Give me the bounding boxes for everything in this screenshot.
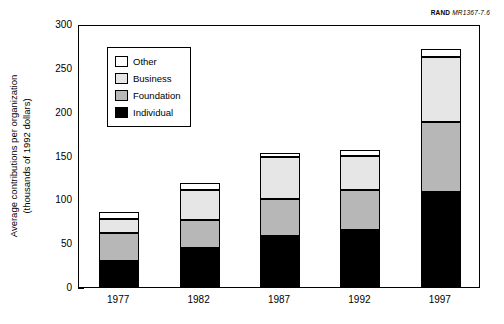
- y-axis-title: Average contributions per organization (…: [8, 24, 36, 288]
- y-axis-tick-label: 100: [38, 194, 72, 205]
- legend-swatch-other: [115, 56, 128, 67]
- y-axis-tick-label: 0: [38, 282, 72, 293]
- bar-segment-other: [99, 212, 139, 219]
- bar-segment-business: [340, 156, 380, 189]
- x-axis-label-1977: 1977: [88, 294, 148, 305]
- y-axis-tick-mark: [78, 288, 84, 289]
- bar-segment-individual: [340, 230, 380, 287]
- bar-segment-business: [421, 57, 461, 122]
- bar-1987: [260, 24, 300, 287]
- bar-segment-other: [340, 150, 380, 156]
- source-credit-brand: RAND: [431, 9, 451, 16]
- bar-segment-business: [260, 157, 300, 199]
- bar-segment-business: [99, 219, 139, 233]
- bar-1992: [340, 24, 380, 287]
- chart-legend: OtherBusinessFoundationIndividual: [107, 47, 191, 127]
- legend-rows: OtherBusinessFoundationIndividual: [115, 53, 184, 121]
- x-axis-label-1992: 1992: [329, 294, 389, 305]
- legend-label-other: Other: [133, 56, 157, 67]
- x-axis-label-1997: 1997: [410, 294, 470, 305]
- bar-segment-foundation: [421, 122, 461, 192]
- bar-1997: [421, 24, 461, 287]
- x-axis-label-1987: 1987: [249, 294, 309, 305]
- legend-item-foundation: Foundation: [115, 87, 184, 104]
- legend-swatch-individual: [115, 107, 128, 118]
- source-credit: RAND MR1367-7.6: [431, 9, 490, 16]
- y-axis-tick-label: 250: [38, 63, 72, 74]
- y-axis-tick-label: 300: [38, 19, 72, 30]
- bar-segment-foundation: [260, 199, 300, 236]
- legend-label-individual: Individual: [133, 107, 173, 118]
- bar-segment-foundation: [99, 233, 139, 261]
- bar-segment-individual: [421, 192, 461, 287]
- legend-label-foundation: Foundation: [133, 90, 181, 101]
- legend-swatch-business: [115, 73, 128, 84]
- legend-item-business: Business: [115, 70, 184, 87]
- y-axis-tick-label: 200: [38, 107, 72, 118]
- bar-segment-other: [180, 183, 220, 190]
- legend-item-individual: Individual: [115, 104, 184, 121]
- bar-segment-business: [180, 190, 220, 220]
- bar-segment-individual: [180, 248, 220, 287]
- bar-segment-other: [260, 153, 300, 157]
- chart-figure: RAND MR1367-7.6 Average contributions pe…: [0, 0, 504, 324]
- legend-label-business: Business: [133, 73, 172, 84]
- bar-segment-individual: [260, 236, 300, 287]
- bar-segment-foundation: [180, 220, 220, 249]
- bar-segment-individual: [99, 261, 139, 287]
- bar-segment-other: [421, 49, 461, 58]
- y-axis-tick-label: 150: [38, 151, 72, 162]
- x-axis-label-1982: 1982: [169, 294, 229, 305]
- legend-item-other: Other: [115, 53, 184, 70]
- y-axis-tick-label: 50: [38, 238, 72, 249]
- source-credit-document-id: MR1367-7.6: [452, 9, 490, 16]
- bar-segment-foundation: [340, 190, 380, 230]
- legend-swatch-foundation: [115, 90, 128, 101]
